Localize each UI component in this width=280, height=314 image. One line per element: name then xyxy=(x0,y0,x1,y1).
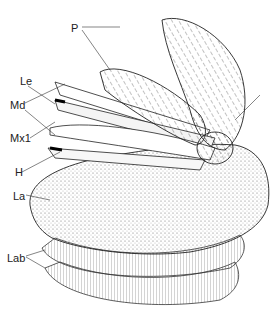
label-labrum: La xyxy=(13,191,25,202)
label-palp: P xyxy=(71,23,78,34)
label-hypopharynx: H xyxy=(15,167,23,178)
label-labium: Lab xyxy=(7,253,25,264)
label-maxilla: Mx1 xyxy=(10,133,31,144)
label-lacinia: Le xyxy=(20,76,32,87)
palp-base xyxy=(197,132,233,164)
mouthparts-illustration xyxy=(0,0,280,314)
label-mandible: Md xyxy=(10,100,25,111)
mouthparts-diagram: P Le Md Mx1 H La Lab xyxy=(0,0,280,314)
